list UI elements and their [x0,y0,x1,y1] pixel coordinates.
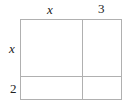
vertical-divider [82,20,83,99]
area-model-rectangle [20,19,122,100]
side-label-x: x [9,42,15,55]
top-label-3: 3 [98,2,105,15]
top-label-x: x [47,3,53,16]
horizontal-divider [21,76,121,77]
side-label-2: 2 [10,82,17,95]
